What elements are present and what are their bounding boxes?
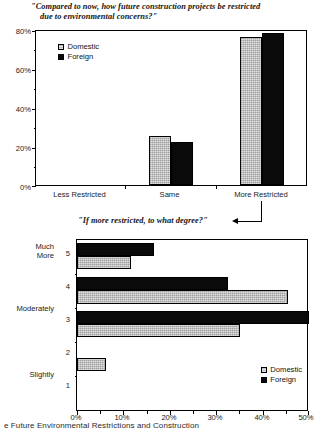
chart-2-ylabel-anchor-slightly: Slightly: [10, 371, 54, 380]
chart-1-xlabel-less-restricted: Less Restricted: [35, 190, 124, 199]
chart-1-ytick-0: 0%: [7, 183, 31, 192]
chart-2-bar-2-domestic: [77, 358, 106, 371]
chart-2-tick-x-45: [286, 411, 287, 414]
chart-1-tick-y-80: [32, 31, 36, 32]
chart-1-tick-y-60: [32, 70, 36, 71]
chart-1-ytick-20: 20%: [7, 144, 31, 153]
chart-2-title: "If more restricted, to what degree?": [78, 216, 238, 226]
chart-2-plot-area: Domestic Foreign: [76, 239, 308, 411]
legend-swatch-foreign-icon: [58, 54, 64, 60]
chart-1-legend-item-domestic: Domestic: [58, 42, 99, 51]
chart-2-bar-5-domestic: [77, 256, 131, 269]
chart-1-ytick-60: 60%: [7, 66, 31, 75]
chart-2-tick-y-sep-4-5: [75, 274, 78, 275]
chart-1-tick-y-70: [34, 50, 37, 51]
chart-2-tick-x-5: [100, 411, 101, 414]
chart-1-xlabel-same: Same: [124, 190, 215, 199]
chart-1-bar-more-restricted-domestic: [240, 37, 262, 185]
chart-1-plot-area: Domestic Foreign: [35, 30, 307, 186]
chart-2-legend-label-foreign: Foreign: [270, 376, 296, 384]
chart-1-bar-same-foreign: [171, 142, 193, 185]
chart-1-tick-y-50: [34, 89, 37, 90]
chart-2-ylabel-anchor-much-more: Much More: [10, 243, 54, 260]
chart-1-tick-y-20: [32, 148, 36, 149]
chart-1-xlabel-more-restricted: More Restricted: [215, 190, 307, 199]
chart-2-xtick-50: 50%: [294, 413, 318, 422]
chart-2-tick-y-sep-2-3: [75, 342, 78, 343]
chart-1-tick-x-sep-1: [125, 186, 126, 189]
chart-2-ylabel-anchor-more: More: [10, 252, 54, 261]
chart-1-title: "Compared to now, how future constructio…: [31, 2, 309, 22]
chart-1-tick-y-30: [34, 128, 37, 129]
legend-swatch-domestic-icon: [261, 367, 267, 373]
callout-arrow-vertical-segment: [261, 201, 262, 221]
chart-2-bar-3-domestic: [77, 324, 240, 337]
chart-1-ytick-40: 40%: [7, 105, 31, 114]
chart-1-bar-more-restricted-foreign: [262, 33, 284, 185]
chart-2-bar-4-foreign: [77, 277, 228, 290]
chart-2-tick-x-25: [193, 411, 194, 414]
legend-swatch-domestic-icon: [58, 44, 64, 50]
chart-2-ylabel-2: 2: [60, 348, 70, 357]
chart-1-tick-y-0: [32, 186, 36, 187]
chart-2-ylabel-anchor-moderately: Moderately: [2, 305, 54, 314]
chart-2-bar-3-foreign: [77, 311, 309, 324]
figure-caption: e Future Environmental Restrictions and …: [4, 421, 199, 430]
chart-2-tick-x-15: [147, 411, 148, 414]
chart-1-title-line-2: due to environmental concerns?": [31, 12, 309, 22]
chart-2-ylabel-1: 1: [60, 381, 70, 390]
chart-2-legend-item-foreign: Foreign: [261, 375, 302, 384]
chart-2-ylabel-4: 4: [60, 282, 70, 291]
chart-1-legend-label-domestic: Domestic: [68, 43, 100, 51]
chart-2-legend: Domestic Foreign: [261, 365, 302, 385]
chart-1-ytick-80: 80%: [7, 27, 31, 36]
chart-1-tick-y-10: [34, 167, 37, 168]
chart-1-tick-y-40: [32, 109, 36, 110]
chart-1-tick-x-sep-2: [216, 186, 217, 189]
chart-2-xtick-30: 30%: [203, 413, 227, 422]
chart-2-tick-x-35: [239, 411, 240, 414]
chart-2-xtick-40: 40%: [250, 413, 274, 422]
chart-1-legend: Domestic Foreign: [58, 42, 99, 62]
callout-arrow-horizontal-segment: [238, 221, 262, 222]
legend-swatch-foreign-icon: [261, 377, 267, 383]
chart-1-legend-label-foreign: Foreign: [68, 53, 94, 61]
chart-1-legend-item-foreign: Foreign: [58, 52, 99, 61]
chart-2-bar-5-foreign: [77, 243, 154, 256]
chart-2-tick-y-sep-3-4: [75, 308, 78, 309]
chart-2-ylabel-5: 5: [60, 249, 70, 258]
chart-1-title-line-1: "Compared to now, how future constructio…: [31, 2, 309, 12]
chart-2-bar-4-domestic: [77, 290, 288, 304]
chart-2-ylabel-3: 3: [60, 315, 70, 324]
chart-2-legend-item-domestic: Domestic: [261, 365, 302, 374]
chart-2-legend-label-domestic: Domestic: [270, 366, 302, 374]
chart-1-bar-same-domestic: [149, 136, 171, 185]
chart-2-tick-y-sep-1-2: [75, 376, 78, 377]
